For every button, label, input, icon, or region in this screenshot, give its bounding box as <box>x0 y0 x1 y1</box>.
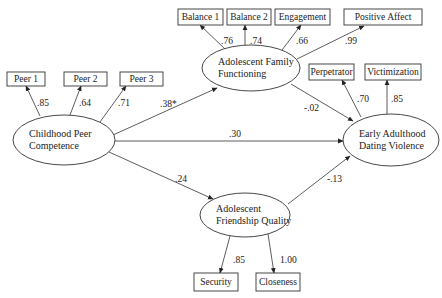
coefficient-label: -.13 <box>327 174 342 184</box>
latent-label: Adolescent <box>216 203 261 214</box>
latent-dating: Early AdulthoodDating Violence <box>343 114 439 166</box>
indicator-perpetrator: Perpetrator <box>309 64 354 80</box>
coefficient-label: .76 <box>221 36 233 46</box>
indicator-engagement: Engagement <box>275 9 330 25</box>
latent-label: Adolescent Family <box>218 56 294 67</box>
latent-label: Childhood Peer <box>29 128 92 139</box>
indicator-label: Balance 1 <box>182 12 220 22</box>
indicator-peer2: Peer 2 <box>64 72 107 86</box>
coefficient-label: .71 <box>118 98 130 108</box>
indicator-label: Security <box>200 277 232 287</box>
loading-arrow <box>268 234 274 273</box>
path-arrow <box>113 88 217 135</box>
latent-label: Early Adulthood <box>359 128 425 139</box>
sem-diagram: Peer 1Peer 2Peer 3Balance 1Balance 2Enga… <box>0 0 442 298</box>
latent-label: Friendship Quality <box>216 215 291 226</box>
indicator-security: Security <box>194 273 238 291</box>
indicator-peer1: Peer 1 <box>7 72 45 86</box>
coefficient-label: .24 <box>175 174 187 184</box>
coefficient-label: .38* <box>160 99 177 109</box>
indicator-balance1: Balance 1 <box>178 9 223 25</box>
indicator-label: Peer 1 <box>14 74 38 84</box>
indicator-label: Peer 2 <box>73 74 97 84</box>
coefficient-label: .64 <box>79 98 91 108</box>
path-arrow <box>109 152 213 199</box>
indicator-closeness: Closeness <box>256 273 300 291</box>
indicator-label: Closeness <box>259 277 297 287</box>
coefficient-label: .30 <box>229 129 241 139</box>
indicator-label: Balance 2 <box>230 12 268 22</box>
indicator-label: Perpetrator <box>310 67 353 77</box>
indicator-peer3: Peer 3 <box>120 72 163 86</box>
latent-family: Adolescent FamilyFunctioning <box>202 45 300 91</box>
coefficient-label: .70 <box>357 94 369 104</box>
indicator-label: Victimization <box>367 67 419 77</box>
coefficient-label: .66 <box>296 36 308 46</box>
latent-label: Competence <box>29 140 80 151</box>
indicator-balance2: Balance 2 <box>227 9 271 25</box>
path-arrow <box>291 84 353 121</box>
latent-label: Dating Violence <box>359 140 425 151</box>
indicator-victimization: Victimization <box>365 64 421 80</box>
latent-peer: Childhood PeerCompetence <box>13 115 115 165</box>
coefficient-label: .85 <box>233 255 245 265</box>
coefficient-label: .74 <box>250 36 262 46</box>
coefficient-label: 1.00 <box>280 255 297 265</box>
coefficient-label: .85 <box>37 98 49 108</box>
latent-friend: AdolescentFriendship Quality <box>200 193 291 237</box>
coefficient-label: -.02 <box>304 103 319 113</box>
latent-label: Functioning <box>218 68 266 79</box>
indicator-label: Peer 3 <box>129 74 153 84</box>
loading-arrow <box>220 236 230 273</box>
coefficient-label: .85 <box>391 94 403 104</box>
indicator-label: Positive Affect <box>355 12 412 22</box>
indicator-label: Engagement <box>279 12 327 22</box>
coefficient-label: .99 <box>345 36 357 46</box>
indicator-posaffect: Positive Affect <box>344 9 422 25</box>
